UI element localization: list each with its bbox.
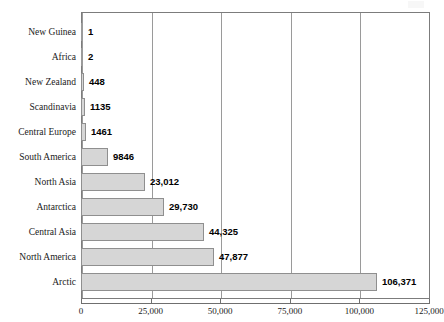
bar	[81, 98, 85, 116]
x-axis-tick-label: 50,000	[208, 306, 233, 316]
bar-row: 1135	[81, 95, 430, 120]
bar-row: 1461	[81, 120, 430, 145]
x-axis-tick	[359, 299, 360, 304]
x-axis-tick-label: 100,000	[345, 306, 374, 316]
bar	[81, 173, 145, 191]
bar-row: 44,325	[81, 220, 430, 245]
x-axis-tick-label: 25,000	[138, 306, 163, 316]
bar-row: 9846	[81, 145, 430, 170]
x-axis-line	[81, 303, 430, 304]
bar	[81, 73, 84, 91]
bar-value-label: 1	[88, 23, 93, 41]
category-label: New Zealand	[0, 70, 76, 95]
x-axis-tick-label: 75,000	[277, 306, 302, 316]
bar	[81, 198, 164, 216]
category-label: Arctic	[0, 270, 76, 295]
bar-value-label: 1461	[91, 123, 112, 141]
bar-value-label: 47,877	[219, 248, 248, 266]
bar-row: 448	[81, 70, 430, 95]
category-label: Antarctica	[0, 195, 76, 220]
bar	[81, 273, 377, 291]
bar-row: 1	[81, 20, 430, 45]
bar-value-label: 2	[88, 48, 93, 66]
x-axis-tick-label: 0	[79, 306, 84, 316]
bar-value-label: 29,730	[169, 198, 198, 216]
bars-layer: 1 2 448 1135 1461 9846 23,012 29	[81, 12, 430, 299]
bar-value-label: 106,371	[382, 273, 416, 291]
x-axis-tick	[220, 299, 221, 304]
x-axis-tick	[429, 299, 430, 304]
bar-value-label: 44,325	[209, 223, 238, 241]
scan-artifact	[408, 1, 424, 8]
bar-row: 29,730	[81, 195, 430, 220]
bar	[81, 248, 214, 266]
bar-row: 23,012	[81, 170, 430, 195]
bar-value-label: 1135	[90, 98, 111, 116]
category-label: New Guinea	[0, 20, 76, 45]
category-label: Central Asia	[0, 220, 76, 245]
x-axis-tick	[151, 299, 152, 304]
bar-row: 106,371	[81, 270, 430, 295]
bar-value-label: 9846	[113, 148, 134, 166]
category-label: Scandinavia	[0, 95, 76, 120]
bar-value-label: 23,012	[150, 173, 179, 191]
bar	[81, 148, 108, 166]
category-axis: New Guinea Africa New Zealand Scandinavi…	[0, 12, 76, 299]
x-axis-tick	[81, 299, 82, 304]
bar	[81, 48, 83, 66]
bar	[81, 223, 204, 241]
category-label: Africa	[0, 45, 76, 70]
bar	[81, 23, 83, 41]
bar-value-label: 448	[89, 73, 105, 91]
category-label: Central Europe	[0, 120, 76, 145]
bar-row: 2	[81, 45, 430, 70]
bar	[81, 123, 86, 141]
x-axis-tick-label: 125,000	[414, 306, 443, 316]
category-label: North America	[0, 245, 76, 270]
category-label: South America	[0, 145, 76, 170]
x-axis-tick	[290, 299, 291, 304]
category-label: North Asia	[0, 170, 76, 195]
bar-row: 47,877	[81, 245, 430, 270]
